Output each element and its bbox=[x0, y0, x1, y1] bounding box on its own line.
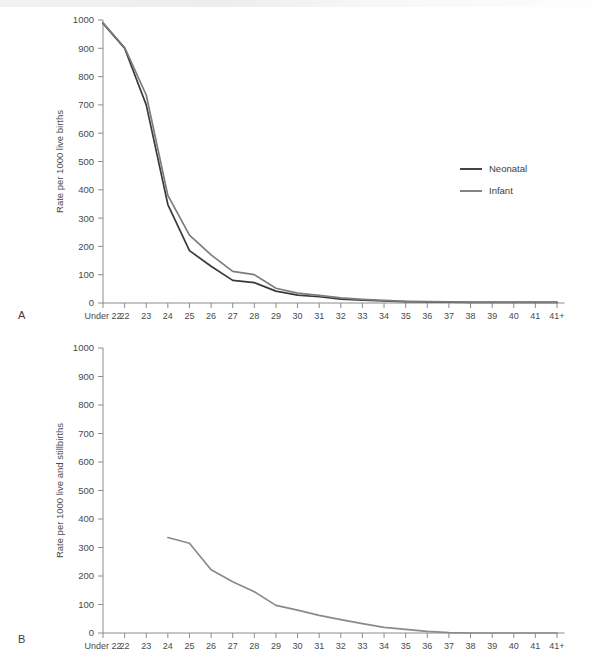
x-tick-label: 35 bbox=[401, 641, 411, 651]
x-tick-label: 37 bbox=[444, 311, 454, 321]
x-tick-label: 25 bbox=[184, 641, 194, 651]
x-tick-label: 28 bbox=[249, 311, 259, 321]
y-tick-label: 100 bbox=[78, 269, 94, 280]
x-tick-label: 26 bbox=[206, 311, 216, 321]
legend-label-infant: Infant bbox=[489, 185, 513, 196]
y-tick-label: 500 bbox=[78, 485, 94, 496]
x-tick-label: 31 bbox=[314, 311, 324, 321]
chart-a-svg: 01002003004005006007008009001000Rate per… bbox=[0, 0, 592, 336]
x-tick-label: 40 bbox=[509, 311, 519, 321]
x-tick-label: 34 bbox=[379, 641, 389, 651]
x-tick-label: 39 bbox=[487, 311, 497, 321]
x-tick-label: 30 bbox=[293, 311, 303, 321]
chart-panel-a: A 01002003004005006007008009001000Rate p… bbox=[0, 0, 592, 336]
y-tick-label: 0 bbox=[89, 297, 94, 308]
x-tick-label: 36 bbox=[422, 311, 432, 321]
y-tick-label: 1000 bbox=[73, 342, 94, 353]
chart-panel-b: B 01002003004005006007008009001000Rate p… bbox=[0, 336, 592, 666]
y-tick-label: 400 bbox=[78, 513, 94, 524]
x-tick-label: 30 bbox=[293, 641, 303, 651]
y-tick-label: 700 bbox=[78, 99, 94, 110]
x-tick-label: 39 bbox=[487, 641, 497, 651]
chart-b-svg: 01002003004005006007008009001000Rate per… bbox=[0, 336, 592, 666]
y-tick-label: 200 bbox=[78, 570, 94, 581]
y-axis-title: Rate per 1000 live births bbox=[54, 110, 65, 213]
x-tick-label: 24 bbox=[163, 641, 173, 651]
x-tick-label: 34 bbox=[379, 311, 389, 321]
x-tick-label: Under 22 bbox=[84, 311, 121, 321]
x-tick-label: 27 bbox=[228, 311, 238, 321]
x-tick-label: 33 bbox=[357, 641, 367, 651]
x-tick-label: 40 bbox=[509, 641, 519, 651]
y-tick-label: 300 bbox=[78, 542, 94, 553]
x-tick-label: 33 bbox=[357, 311, 367, 321]
chart-b-canvas: 01002003004005006007008009001000Rate per… bbox=[0, 336, 592, 666]
y-tick-label: 300 bbox=[78, 213, 94, 224]
x-tick-label: 31 bbox=[314, 641, 324, 651]
x-tick-label: Under 22 bbox=[84, 641, 121, 651]
y-tick-label: 200 bbox=[78, 241, 94, 252]
x-tick-label: 32 bbox=[336, 641, 346, 651]
x-tick-label: 38 bbox=[466, 641, 476, 651]
x-tick-label: 22 bbox=[120, 641, 130, 651]
y-tick-label: 800 bbox=[78, 71, 94, 82]
x-tick-label: 38 bbox=[466, 311, 476, 321]
y-tick-label: 700 bbox=[78, 428, 94, 439]
x-tick-label: 24 bbox=[163, 311, 173, 321]
y-tick-label: 0 bbox=[89, 627, 94, 638]
y-tick-label: 900 bbox=[78, 43, 94, 54]
x-tick-label: 29 bbox=[271, 641, 281, 651]
chart-a-canvas: 01002003004005006007008009001000Rate per… bbox=[0, 0, 592, 336]
x-tick-label: 41+ bbox=[549, 641, 564, 651]
series-line-stillbirth-and-neonatal-rate bbox=[168, 538, 557, 633]
x-tick-label: 29 bbox=[271, 311, 281, 321]
y-tick-label: 600 bbox=[78, 456, 94, 467]
x-tick-label: 41+ bbox=[549, 311, 564, 321]
y-tick-label: 800 bbox=[78, 399, 94, 410]
y-tick-label: 500 bbox=[78, 156, 94, 167]
x-tick-label: 26 bbox=[206, 641, 216, 651]
x-tick-label: 41 bbox=[530, 641, 540, 651]
x-tick-label: 23 bbox=[141, 641, 151, 651]
x-tick-label: 36 bbox=[422, 641, 432, 651]
y-tick-label: 100 bbox=[78, 599, 94, 610]
legend-label-neonatal: Neonatal bbox=[489, 163, 527, 174]
x-tick-label: 41 bbox=[530, 311, 540, 321]
x-tick-label: 25 bbox=[184, 311, 194, 321]
x-tick-label: 22 bbox=[120, 311, 130, 321]
x-tick-label: 23 bbox=[141, 311, 151, 321]
y-tick-label: 600 bbox=[78, 128, 94, 139]
y-tick-label: 1000 bbox=[73, 14, 94, 25]
y-tick-label: 400 bbox=[78, 184, 94, 195]
y-tick-label: 900 bbox=[78, 371, 94, 382]
x-tick-label: 27 bbox=[228, 641, 238, 651]
y-axis-title: Rate per 1000 live and stillbirths bbox=[54, 423, 65, 558]
x-tick-label: 35 bbox=[401, 311, 411, 321]
x-tick-label: 37 bbox=[444, 641, 454, 651]
x-tick-label: 28 bbox=[249, 641, 259, 651]
x-tick-label: 32 bbox=[336, 311, 346, 321]
